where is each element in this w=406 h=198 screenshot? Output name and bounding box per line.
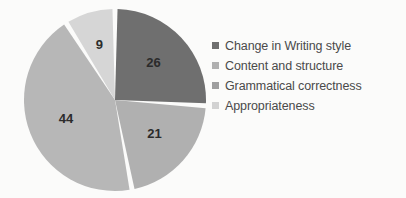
legend-item[interactable]: Content and structure (212, 56, 404, 76)
legend-swatch-icon (212, 102, 219, 109)
pie-slice-value-label: 44 (59, 111, 74, 126)
legend-item[interactable]: Appropriateness (212, 96, 404, 116)
pie-chart-plot: 2621449 (22, 6, 208, 194)
legend-item-label: Appropriateness (225, 96, 315, 116)
pie-slice-group (24, 9, 206, 191)
legend-item-label: Grammatical correctness (225, 76, 362, 96)
legend-swatch-icon (212, 82, 219, 89)
legend-item-label: Change in Writing style (225, 36, 351, 56)
pie-slice-value-label: 9 (96, 37, 103, 52)
legend-item[interactable]: Grammatical correctness (212, 76, 404, 96)
pie-slice-value-label: 21 (147, 126, 161, 141)
pie-slice[interactable] (24, 25, 130, 191)
pie-slice[interactable] (115, 100, 206, 189)
legend-swatch-icon (212, 62, 219, 69)
pie-svg: 2621449 (22, 6, 208, 194)
chart-legend: Change in Writing styleContent and struc… (212, 36, 404, 116)
legend-item[interactable]: Change in Writing style (212, 36, 404, 56)
legend-item-label: Content and structure (225, 56, 343, 76)
legend-swatch-icon (212, 42, 219, 49)
pie-chart-figure: 2621449 Change in Writing styleContent a… (0, 0, 406, 198)
pie-slice-value-label: 26 (146, 55, 160, 70)
